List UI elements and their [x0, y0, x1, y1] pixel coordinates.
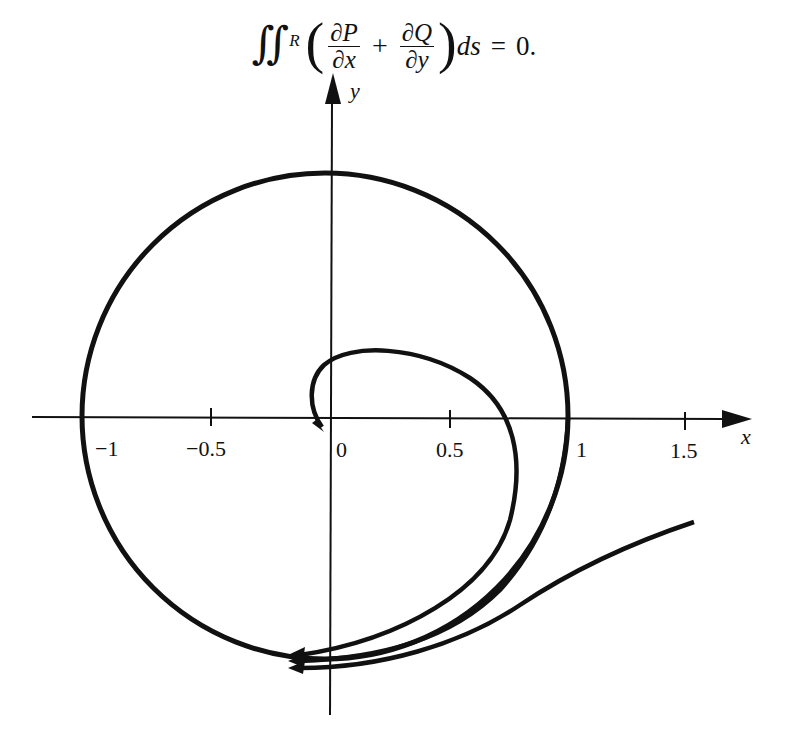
- y-axis: [325, 73, 341, 715]
- tick-label-0: 0: [336, 437, 347, 462]
- tick-label-1: 1: [576, 437, 587, 462]
- y-axis-arrow-icon: [325, 73, 341, 104]
- tick-label-1-5: 1.5: [670, 438, 698, 463]
- x-axis-label: x: [740, 424, 751, 449]
- tick-label-0-5: 0.5: [436, 437, 464, 462]
- tick-label-neg-1: −1: [95, 436, 118, 461]
- phase-diagram: −1 −0.5 0 0.5 1 1.5 x y: [0, 0, 788, 740]
- x-axis: [32, 408, 752, 430]
- limit-cycle-circle: [82, 173, 568, 659]
- y-axis-label: y: [348, 78, 360, 103]
- inner-spiral-trajectory: [300, 350, 517, 655]
- tick-label-neg-0-5: −0.5: [186, 436, 226, 461]
- converging-arrowheads: [288, 647, 305, 674]
